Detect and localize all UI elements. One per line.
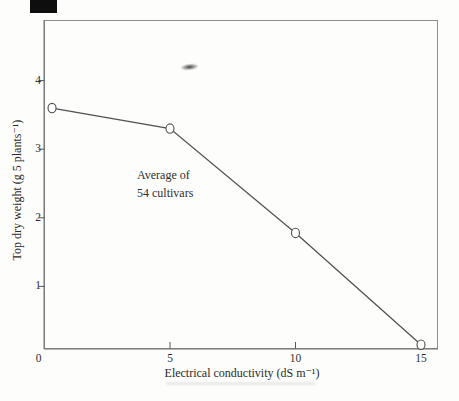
data-line <box>52 108 421 345</box>
x-axis-title: Electrical conductivity (dS m⁻¹) <box>165 366 320 381</box>
y-tick-label: 3 <box>35 143 41 155</box>
x-tick-label: 15 <box>415 352 427 364</box>
data-point-marker <box>417 340 425 349</box>
data-point-marker <box>292 228 300 237</box>
y-tick-label: 2 <box>35 211 41 223</box>
series-annotation: Average of 54 cultivars <box>137 167 193 202</box>
line-chart <box>0 0 459 401</box>
x-tick-label: 0 <box>36 352 42 364</box>
figure: 0510151234 Average of 54 cultivars Elect… <box>0 0 459 401</box>
annotation-line1: Average of <box>137 167 193 185</box>
x-tick-label: 5 <box>167 352 173 364</box>
y-tick-label: 1 <box>35 280 41 292</box>
y-axis-title: Top dry weight (g 5 plants⁻¹) <box>10 120 25 261</box>
x-tick-label: 10 <box>290 352 302 364</box>
y-tick-label: 4 <box>35 74 41 86</box>
data-point-marker <box>48 103 56 112</box>
data-point-marker <box>166 124 174 133</box>
annotation-line2: 54 cultivars <box>137 185 193 203</box>
